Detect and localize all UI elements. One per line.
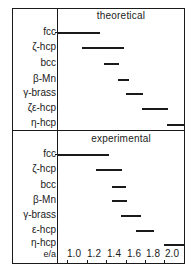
theoretical-bar-zeta-eps-hcp <box>142 108 168 110</box>
theoretical-bar-bcc <box>104 63 119 65</box>
x-tick-label-1.6: 1.6 <box>127 248 141 259</box>
theoretical-label-zeta-hcp: ζ-hcp <box>32 41 56 53</box>
theoretical-label-gamma-brass: γ-brass <box>23 87 56 99</box>
experimental-label-beta-mn: β-Mn <box>33 194 56 206</box>
experimental-label-eps-hcp: ε-hcp <box>32 224 56 236</box>
x-tick-label-2.0: 2.0 <box>165 248 179 259</box>
experimental-bar-eps-hcp <box>136 230 154 232</box>
experimental-bar-gamma-brass <box>121 215 141 217</box>
panel-divider <box>12 130 185 131</box>
experimental-bar-bcc <box>112 186 126 188</box>
experimental-bar-beta-mn <box>112 200 127 202</box>
x-tick-1.8 <box>145 260 146 264</box>
x-axis-label: e/a <box>43 249 56 259</box>
theoretical-label-bcc: bcc <box>40 57 56 69</box>
x-tick-1.2 <box>87 260 88 264</box>
theoretical-bar-fcc <box>57 32 100 34</box>
experimental-bar-zeta-hcp <box>96 169 122 171</box>
x-tick-1.4 <box>106 260 107 264</box>
x-tick-1.0 <box>67 260 68 264</box>
theoretical-bar-zeta-hcp <box>82 47 124 49</box>
theoretical-label-eta-hcp: η-hcp <box>31 117 56 129</box>
theoretical-bar-gamma-brass <box>126 93 143 95</box>
theoretical-label-beta-mn: β-Mn <box>33 73 56 85</box>
theoretical-label-zeta-eps-hcp: ζε-hcp <box>28 102 56 114</box>
x-tick-label-1.4: 1.4 <box>107 248 121 259</box>
x-tick-label-1.0: 1.0 <box>67 248 81 259</box>
experimental-bar-eta-hcp <box>164 244 185 246</box>
experimental-label-zeta-hcp: ζ-hcp <box>32 163 56 175</box>
x-tick-label-1.2: 1.2 <box>87 248 101 259</box>
experimental-bar-fcc <box>57 154 109 156</box>
experimental-label-gamma-brass: γ-brass <box>23 209 56 221</box>
panel-title-theoretical: theoretical <box>57 10 185 21</box>
panel-title-experimental: experimental <box>57 133 185 144</box>
theoretical-bar-beta-mn <box>118 79 129 81</box>
x-tick-label-1.8: 1.8 <box>146 248 160 259</box>
x-tick-1.6 <box>126 260 127 264</box>
experimental-label-eta-hcp: η-hcp <box>31 237 56 249</box>
theoretical-bar-eta-hcp <box>167 124 185 126</box>
x-tick-2.0 <box>164 260 165 264</box>
experimental-label-bcc: bcc <box>40 179 56 191</box>
